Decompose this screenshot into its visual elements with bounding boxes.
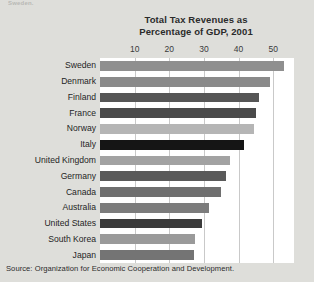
bar-row xyxy=(100,171,294,181)
bar-south-korea xyxy=(100,234,195,244)
x-tick-label-10: 10 xyxy=(130,44,139,54)
bar-italy xyxy=(100,140,244,150)
category-label-sweden: Sweden xyxy=(65,61,96,70)
bar-row xyxy=(100,124,294,134)
bar-united-kingdom xyxy=(100,156,230,166)
bar-finland xyxy=(100,93,259,103)
chart-figure: Total Tax Revenues as Percentage of GDP,… xyxy=(0,6,314,258)
bar-denmark xyxy=(100,77,270,87)
category-label-denmark: Denmark xyxy=(61,77,96,86)
category-label-norway: Norway xyxy=(67,124,96,133)
bar-row xyxy=(100,234,294,244)
chart-title-line-1: Total Tax Revenues as xyxy=(96,14,296,26)
chart-title-line-2: Percentage of GDP, 2001 xyxy=(96,26,296,38)
category-label-finland: Finland xyxy=(68,93,96,102)
source-note: Source: Organization for Economic Cooper… xyxy=(6,264,234,273)
bar-row xyxy=(100,93,294,103)
category-label-germany: Germany xyxy=(61,172,96,181)
bar-japan xyxy=(100,250,194,260)
x-tick-label-30: 30 xyxy=(199,44,208,54)
bar-row xyxy=(100,219,294,229)
bar-australia xyxy=(100,203,209,213)
category-axis-labels: SwedenDenmarkFinlandFranceNorwayItalyUni… xyxy=(0,58,96,263)
chart-title: Total Tax Revenues as Percentage of GDP,… xyxy=(96,14,296,37)
category-label-united-kingdom: United Kingdom xyxy=(35,156,96,165)
bar-united-states xyxy=(100,219,202,229)
x-tick-label-40: 40 xyxy=(234,44,243,54)
category-label-italy: Italy xyxy=(80,140,96,149)
bar-germany xyxy=(100,171,226,181)
category-label-united-states: United States xyxy=(44,219,96,228)
bar-sweden xyxy=(100,61,284,71)
bar-norway xyxy=(100,124,254,134)
bar-row xyxy=(100,250,294,260)
bar-series xyxy=(100,58,294,263)
bar-row xyxy=(100,140,294,150)
x-axis-tick-labels: 1020304050 xyxy=(0,44,314,56)
bar-france xyxy=(100,108,256,118)
bar-row xyxy=(100,77,294,87)
category-label-australia: Australia xyxy=(63,203,96,212)
x-tick-label-50: 50 xyxy=(268,44,277,54)
bar-row xyxy=(100,61,294,71)
category-label-japan: Japan xyxy=(73,251,96,260)
bar-row xyxy=(100,108,294,118)
bar-canada xyxy=(100,187,221,197)
category-label-france: France xyxy=(69,109,96,118)
category-label-south-korea: South Korea xyxy=(48,235,96,244)
plot-area xyxy=(100,58,294,263)
bar-row xyxy=(100,203,294,213)
x-tick-label-20: 20 xyxy=(165,44,174,54)
bar-row xyxy=(100,156,294,166)
bar-row xyxy=(100,187,294,197)
category-label-canada: Canada xyxy=(66,188,96,197)
